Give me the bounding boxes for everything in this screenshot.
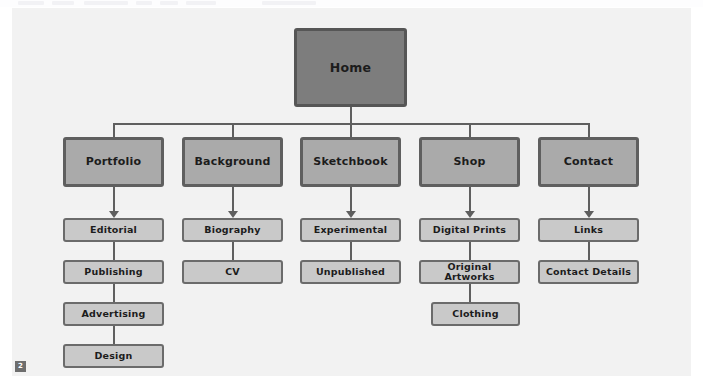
node-contact-details-label: Contact Details — [546, 267, 631, 277]
node-home-label: Home — [330, 61, 371, 75]
connector-editorial-publishing — [113, 242, 115, 260]
node-contact-label: Contact — [564, 156, 613, 168]
connector-background-to-child — [232, 187, 234, 213]
node-editorial-label: Editorial — [90, 225, 137, 235]
connector-home-stem — [350, 107, 352, 124]
node-shop-label: Shop — [454, 156, 486, 168]
cropped-toolbar-strip — [0, 0, 703, 7]
node-cv-label: CV — [225, 267, 240, 277]
arrowhead-shop — [465, 211, 475, 218]
connector-portfolio-to-child — [113, 187, 115, 213]
connector-contact-to-child — [588, 187, 590, 213]
connector-originalartworks-clothing — [469, 284, 471, 302]
node-design[interactable]: Design — [63, 344, 164, 368]
page-number-badge: 2 — [15, 361, 26, 372]
node-publishing-label: Publishing — [84, 267, 142, 277]
node-experimental[interactable]: Experimental — [300, 218, 401, 242]
node-original-artworks-label: Original Artworks — [421, 262, 518, 283]
node-original-artworks[interactable]: Original Artworks — [419, 260, 520, 284]
connector-drop-shop — [469, 123, 471, 137]
connector-digitalprints-originalartworks — [469, 242, 471, 260]
node-editorial[interactable]: Editorial — [63, 218, 164, 242]
node-unpublished-label: Unpublished — [316, 267, 385, 277]
connector-advertising-design — [113, 326, 115, 344]
node-digital-prints-label: Digital Prints — [433, 225, 506, 235]
node-digital-prints[interactable]: Digital Prints — [419, 218, 520, 242]
arrowhead-sketchbook — [346, 211, 356, 218]
node-background[interactable]: Background — [182, 137, 283, 187]
node-sketchbook-label: Sketchbook — [313, 156, 387, 168]
node-publishing[interactable]: Publishing — [63, 260, 164, 284]
page-number-badge-label: 2 — [18, 363, 23, 370]
node-cv[interactable]: CV — [182, 260, 283, 284]
connector-shop-to-child — [469, 187, 471, 213]
arrowhead-portfolio — [109, 211, 119, 218]
node-portfolio[interactable]: Portfolio — [63, 137, 164, 187]
connector-drop-background — [232, 123, 234, 137]
arrowhead-contact — [584, 211, 594, 218]
node-experimental-label: Experimental — [314, 225, 388, 235]
node-biography[interactable]: Biography — [182, 218, 283, 242]
connector-publishing-advertising — [113, 284, 115, 302]
node-sketchbook[interactable]: Sketchbook — [300, 137, 401, 187]
node-advertising[interactable]: Advertising — [63, 302, 164, 326]
connector-drop-sketchbook — [350, 123, 352, 137]
arrowhead-background — [228, 211, 238, 218]
connector-sketchbook-to-child — [350, 187, 352, 213]
connector-biography-cv — [232, 242, 234, 260]
connector-drop-portfolio — [113, 123, 115, 137]
node-biography-label: Biography — [204, 225, 260, 235]
node-home[interactable]: Home — [294, 28, 407, 107]
node-advertising-label: Advertising — [82, 309, 146, 319]
node-clothing-label: Clothing — [452, 309, 498, 319]
node-portfolio-label: Portfolio — [86, 156, 142, 168]
node-contact[interactable]: Contact — [538, 137, 639, 187]
connector-links-contactdetails — [588, 242, 590, 260]
node-links-label: Links — [574, 225, 603, 235]
node-links[interactable]: Links — [538, 218, 639, 242]
node-background-label: Background — [194, 156, 270, 168]
node-shop[interactable]: Shop — [419, 137, 520, 187]
node-clothing[interactable]: Clothing — [431, 302, 520, 326]
node-design-label: Design — [94, 351, 132, 361]
connector-drop-contact — [588, 123, 590, 137]
sitemap-canvas: Home Portfolio Background Sketchbook Sho… — [12, 8, 691, 376]
node-contact-details[interactable]: Contact Details — [538, 260, 639, 284]
connector-experimental-unpublished — [350, 242, 352, 260]
node-unpublished[interactable]: Unpublished — [300, 260, 401, 284]
